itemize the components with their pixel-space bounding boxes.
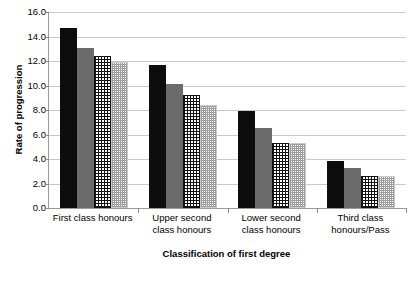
bar [94, 56, 111, 208]
bar-chart: Rate of progression 16.014.012.010.08.06… [0, 0, 412, 283]
bar [289, 143, 306, 208]
y-tick-mark [45, 208, 49, 209]
y-tick-label: 10.0 [16, 81, 46, 91]
y-tick-label: 8.0 [16, 105, 46, 115]
bar [111, 62, 128, 208]
bar [149, 65, 166, 208]
y-tick-label: 12.0 [16, 56, 46, 66]
y-tick-label: 6.0 [16, 130, 46, 140]
bar [255, 128, 272, 208]
bar [361, 176, 378, 208]
y-tick-label: 4.0 [16, 154, 46, 164]
y-tick-label: 16.0 [16, 7, 46, 17]
bar [200, 105, 217, 208]
bar-group [317, 12, 406, 208]
bar [183, 95, 200, 208]
x-category-label: Third class honours/Pass [316, 212, 405, 235]
x-axis-category-labels: First class honoursUpper second class ho… [48, 212, 405, 246]
bar [238, 111, 255, 208]
bar [60, 28, 77, 208]
x-tick-mark [406, 208, 407, 213]
y-tick-label: 14.0 [16, 32, 46, 42]
bar-group [138, 12, 227, 208]
x-category-label: Upper second class honours [137, 212, 226, 235]
x-category-label: First class honours [48, 212, 137, 224]
bar [166, 84, 183, 208]
bar-group [228, 12, 317, 208]
bar [272, 143, 289, 208]
bar [327, 161, 344, 208]
y-axis-tick-labels: 16.014.012.010.08.06.04.02.00.0 [14, 0, 46, 283]
y-tick-label: 0.0 [16, 203, 46, 213]
x-axis-title: Classification of first degree [48, 248, 405, 259]
plot-area [48, 12, 406, 209]
bar [378, 176, 395, 208]
bar-group [49, 12, 138, 208]
x-category-label: Lower second class honours [227, 212, 316, 235]
bar [77, 48, 94, 208]
bar [344, 168, 361, 208]
y-tick-label: 2.0 [16, 179, 46, 189]
